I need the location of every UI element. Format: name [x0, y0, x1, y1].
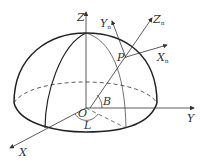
- meridian-p: [86, 33, 126, 128]
- point-p-label: P: [117, 52, 124, 63]
- y-axis-label: Y: [187, 113, 194, 124]
- yn-axis-label: Yn: [100, 18, 111, 30]
- x-axis-label: X: [19, 147, 27, 158]
- longitude-radius: [86, 108, 126, 128]
- xn-axis-label: Xn: [157, 52, 169, 64]
- dome-outline: [14, 33, 157, 103]
- z-axis-label: Z: [77, 12, 85, 23]
- longitude-label: L: [84, 120, 91, 131]
- back-equator: [14, 82, 157, 103]
- latitude-label: B: [103, 96, 111, 107]
- zn-axis-label: Zn: [153, 14, 165, 26]
- origin-label: O: [78, 108, 87, 119]
